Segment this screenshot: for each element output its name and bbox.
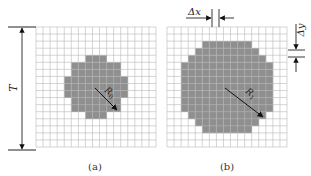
- filled-cell: [259, 105, 266, 112]
- filled-cell: [121, 76, 128, 83]
- filled-cell: [238, 126, 245, 133]
- filled-cell: [195, 105, 202, 112]
- filled-cell: [259, 55, 266, 62]
- filled-cell: [216, 83, 223, 90]
- filled-cell: [216, 119, 223, 126]
- filled-cell: [92, 105, 99, 112]
- filled-cell: [195, 91, 202, 98]
- filled-cell: [78, 91, 85, 98]
- filled-cell: [100, 55, 107, 62]
- filled-cell: [100, 69, 107, 76]
- filled-cell: [209, 126, 216, 133]
- filled-cell: [85, 62, 92, 69]
- filled-cell: [266, 76, 273, 83]
- filled-cell: [266, 62, 273, 69]
- filled-cell: [216, 41, 223, 48]
- filled-cell: [64, 83, 71, 90]
- filled-cell: [202, 69, 209, 76]
- filled-cell: [114, 83, 121, 90]
- filled-cell: [245, 112, 252, 119]
- filled-cell: [181, 105, 188, 112]
- filled-cell: [92, 62, 99, 69]
- filled-cell: [195, 98, 202, 105]
- filled-cell: [100, 112, 107, 119]
- filled-cell: [209, 55, 216, 62]
- filled-cell: [195, 62, 202, 69]
- filled-cell: [202, 126, 209, 133]
- height-label: T: [7, 83, 20, 92]
- filled-cell: [92, 98, 99, 105]
- filled-cell: [209, 98, 216, 105]
- filled-cell: [223, 119, 230, 126]
- filled-cell: [216, 91, 223, 98]
- filled-cell: [238, 41, 245, 48]
- filled-cell: [259, 83, 266, 90]
- filled-cell: [252, 119, 259, 126]
- filled-cell: [92, 69, 99, 76]
- filled-cell: [223, 69, 230, 76]
- filled-cell: [209, 62, 216, 69]
- filled-cell: [114, 76, 121, 83]
- filled-cell: [259, 98, 266, 105]
- filled-cell: [71, 105, 78, 112]
- filled-cell: [195, 69, 202, 76]
- filled-cell: [181, 91, 188, 98]
- filled-cell: [223, 76, 230, 83]
- filled-cell: [231, 55, 238, 62]
- filled-cell: [231, 41, 238, 48]
- panel-a: [36, 27, 156, 147]
- filled-cell: [195, 48, 202, 55]
- filled-cell: [78, 83, 85, 90]
- filled-cell: [231, 126, 238, 133]
- filled-cell: [114, 69, 121, 76]
- filled-cell: [188, 76, 195, 83]
- filled-cell: [238, 69, 245, 76]
- filled-cell: [85, 91, 92, 98]
- panel-b: [167, 27, 287, 147]
- filled-cell: [64, 76, 71, 83]
- filled-cell: [71, 83, 78, 90]
- filled-cell: [71, 98, 78, 105]
- filled-cell: [209, 91, 216, 98]
- filled-cell: [252, 69, 259, 76]
- filled-cell: [85, 55, 92, 62]
- filled-cell: [202, 105, 209, 112]
- filled-cell: [209, 83, 216, 90]
- filled-cell: [259, 112, 266, 119]
- filled-cell: [223, 112, 230, 119]
- filled-cell: [202, 112, 209, 119]
- filled-cell: [188, 98, 195, 105]
- filled-cell: [78, 76, 85, 83]
- filled-cell: [85, 69, 92, 76]
- filled-cell: [223, 98, 230, 105]
- filled-cell: [216, 76, 223, 83]
- filled-cell: [266, 83, 273, 90]
- dx-annotation: Δx: [186, 6, 234, 27]
- filled-cell: [216, 62, 223, 69]
- filled-cell: [223, 62, 230, 69]
- filled-cell: [121, 91, 128, 98]
- lattice-figure: T Δx Δy (a) (b) R0 R1: [0, 0, 311, 176]
- filled-cell: [238, 62, 245, 69]
- filled-cell: [107, 69, 114, 76]
- filled-cell: [202, 98, 209, 105]
- filled-cell: [223, 105, 230, 112]
- filled-cell: [223, 41, 230, 48]
- filled-cell: [216, 48, 223, 55]
- filled-cell: [195, 83, 202, 90]
- filled-cell: [202, 76, 209, 83]
- filled-cell: [195, 76, 202, 83]
- filled-cell: [231, 83, 238, 90]
- filled-cell: [107, 62, 114, 69]
- filled-cell: [245, 62, 252, 69]
- filled-cell: [188, 83, 195, 90]
- filled-cell: [238, 48, 245, 55]
- filled-cell: [209, 48, 216, 55]
- dx-label: Δx: [187, 6, 201, 17]
- filled-cell: [231, 98, 238, 105]
- filled-cell: [92, 55, 99, 62]
- filled-cell: [259, 62, 266, 69]
- filled-cell: [216, 112, 223, 119]
- filled-cell: [231, 48, 238, 55]
- filled-cell: [202, 48, 209, 55]
